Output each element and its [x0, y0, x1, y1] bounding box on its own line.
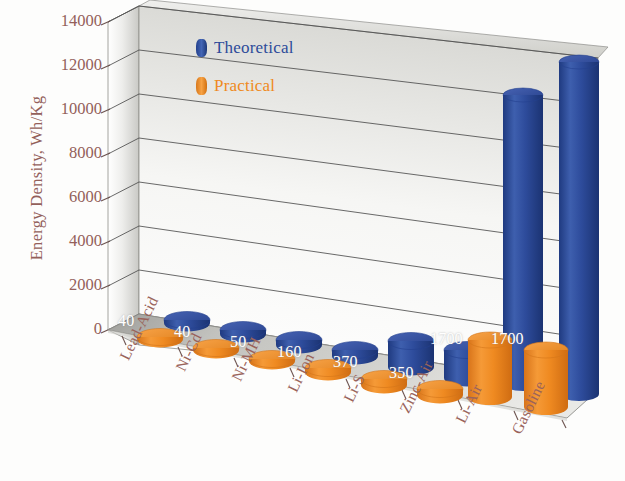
- legend-label-practical: Practical: [214, 76, 275, 96]
- y-tick-label-6000: 6000: [28, 189, 102, 206]
- y-tick-label-4000: 4000: [28, 233, 102, 250]
- y-tick-label-14000: 14000: [28, 13, 102, 30]
- axis-side-wall: [108, 6, 139, 345]
- y-tick-label-10000: 10000: [28, 101, 102, 118]
- legend-swatch-theoretical: [196, 39, 207, 57]
- y-tick-label-8000: 8000: [28, 145, 102, 162]
- legend-item-practical: Practical: [196, 76, 275, 96]
- data-label-li-s: 370: [333, 353, 358, 371]
- legend-item-theoretical: Theoretical: [196, 38, 294, 58]
- legend-swatch-practical: [196, 77, 207, 95]
- y-tick-label-2000: 2000: [28, 277, 102, 294]
- data-label-gasoline: 1700: [491, 330, 524, 348]
- y-tick-label-0: 0: [28, 321, 102, 338]
- energy-density-3d-bar-chart: Energy Density, Wh/Kg 14000 12000 10000 …: [0, 0, 625, 481]
- y-tick-label-12000: 12000: [28, 57, 102, 74]
- data-label-li-air: 1700: [430, 330, 463, 348]
- legend-label-theoretical: Theoretical: [214, 38, 294, 58]
- y-axis-tick-labels: 14000 12000 10000 8000 6000 4000 2000 0: [28, 0, 102, 481]
